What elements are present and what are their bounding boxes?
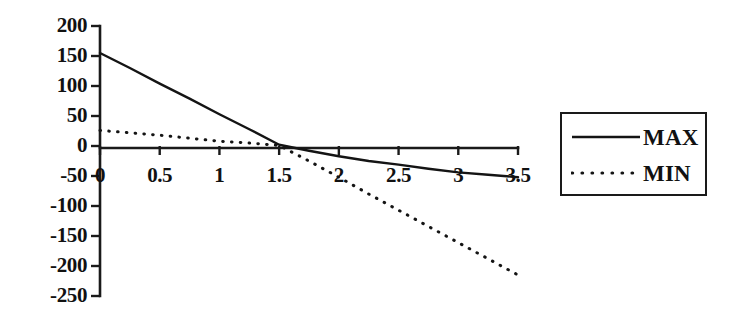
x-axis-tick-label: 1.5 xyxy=(257,165,301,186)
y-axis-tick-label: 100 xyxy=(25,75,87,96)
x-axis-tick-label: 2 xyxy=(317,165,361,186)
legend-swatch-max-icon xyxy=(571,130,641,144)
x-axis-tick-label: 0 xyxy=(78,165,122,186)
y-axis-tick-label: 150 xyxy=(25,45,87,66)
line-chart-figure: 200150100500-50-100-150-200-250 00.511.5… xyxy=(0,0,755,321)
series-line-min xyxy=(100,130,518,275)
y-axis-tick-label: -250 xyxy=(25,285,87,306)
x-axis-tick-label: 2.5 xyxy=(377,165,421,186)
chart-legend: MAX MIN xyxy=(560,112,707,196)
legend-label-min: MIN xyxy=(643,162,691,185)
legend-item-max: MAX xyxy=(562,120,705,154)
y-axis-tick-label: 50 xyxy=(25,105,87,126)
legend-swatch-min-icon xyxy=(571,166,641,180)
y-axis-tick-label: 0 xyxy=(25,135,87,156)
legend-label-max: MAX xyxy=(643,126,699,149)
y-axis-ticks xyxy=(91,26,100,296)
x-axis-tick-label: 3 xyxy=(436,165,480,186)
y-axis-tick-label: 200 xyxy=(25,15,87,36)
series-line-max xyxy=(100,53,518,177)
x-axis-tick-label: 0.5 xyxy=(138,165,182,186)
x-axis-tick-label: 1 xyxy=(197,165,241,186)
y-axis-tick-label: -150 xyxy=(25,225,87,246)
x-axis-tick-label: 3.5 xyxy=(496,165,540,186)
y-axis-tick-label: -200 xyxy=(25,255,87,276)
y-axis-tick-label: -100 xyxy=(25,195,87,216)
legend-item-min: MIN xyxy=(562,156,705,190)
